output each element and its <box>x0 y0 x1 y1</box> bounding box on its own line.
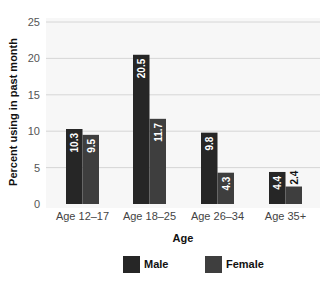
y-tick-label: 25 <box>28 16 40 28</box>
data-label: 4.3 <box>221 176 232 190</box>
y-axis-ticks: 0510152025 <box>28 16 40 210</box>
x-axis-categories: Age 12–17Age 18–25Age 26–34Age 35+ <box>56 210 306 222</box>
data-label: 20.5 <box>136 58 147 78</box>
data-label: 9.8 <box>204 136 215 150</box>
x-category-label: Age 35+ <box>265 210 306 222</box>
y-tick-label: 0 <box>34 198 40 210</box>
y-tick-label: 5 <box>34 162 40 174</box>
legend-label-female: Female <box>226 258 264 270</box>
data-label: 9.5 <box>86 138 97 152</box>
y-axis-label: Percent using in past month <box>7 38 19 186</box>
bar-chart: 0510152025 10.39.520.511.79.84.34.42.4 A… <box>0 0 334 287</box>
data-label: 4.4 <box>272 176 283 190</box>
bar-female <box>286 187 303 204</box>
data-label: 11.7 <box>153 122 164 141</box>
y-tick-label: 10 <box>28 125 40 137</box>
y-tick-label: 20 <box>28 52 40 64</box>
x-category-label: Age 26–34 <box>191 210 244 222</box>
data-label: 2.4 <box>289 170 300 184</box>
legend-swatch-female <box>205 256 222 273</box>
data-label: 10.3 <box>69 133 80 153</box>
x-axis-label: Age <box>173 232 194 244</box>
legend-label-male: Male <box>144 258 168 270</box>
y-tick-label: 15 <box>28 89 40 101</box>
legend-swatch-male <box>123 256 140 273</box>
legend: MaleFemale <box>123 256 264 273</box>
x-category-label: Age 12–17 <box>56 210 109 222</box>
x-category-label: Age 18–25 <box>123 210 176 222</box>
